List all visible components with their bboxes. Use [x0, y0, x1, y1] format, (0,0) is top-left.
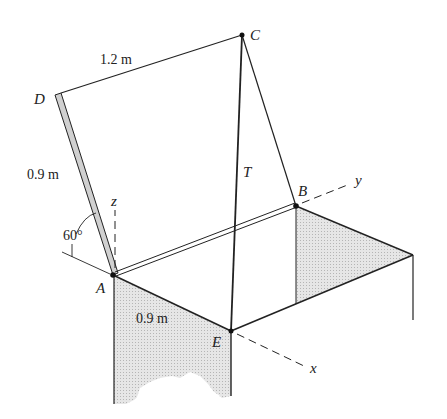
- label-a: A: [95, 280, 106, 296]
- label-t: T: [243, 164, 253, 180]
- x-axis: [237, 334, 304, 366]
- y-axis: [302, 184, 350, 203]
- axis-label-y: y: [353, 172, 362, 188]
- axis-label-x: x: [309, 360, 317, 376]
- label-b: B: [298, 183, 307, 199]
- panel-abcd: [55, 35, 297, 276]
- point-b: [293, 203, 299, 209]
- dimension-dc: 1.2 m: [100, 52, 132, 67]
- point-a: [110, 272, 116, 278]
- axis-label-z: z: [110, 193, 117, 209]
- label-e: E: [211, 334, 221, 350]
- point-e: [229, 329, 234, 334]
- right-wall-shaded: [296, 206, 413, 304]
- point-c: [240, 33, 245, 38]
- label-d: D: [33, 91, 45, 107]
- label-c: C: [250, 27, 261, 43]
- dimension-ad: 0.9 m: [27, 167, 59, 182]
- cable-t: [231, 35, 242, 331]
- angle-label: 60°: [63, 228, 83, 243]
- rigid-body-diagram: C D B A E T z y x 1.2 m 0.9 m 0.9 m 60°: [0, 0, 447, 419]
- dimension-ae: 0.9 m: [136, 311, 168, 326]
